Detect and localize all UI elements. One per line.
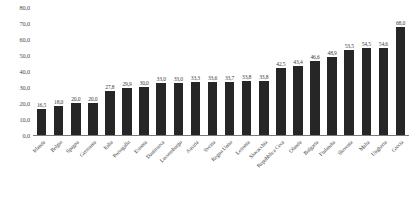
bar-value-label: 18,0 (54, 99, 63, 105)
bar-value-label: 33,3 (191, 75, 200, 81)
y-axis-tick-label: 70,0 (0, 21, 30, 27)
x-axis-slot: Italia (101, 137, 118, 209)
bar-value-label: 46,6 (310, 54, 319, 60)
bar[interactable]: 29,9 (122, 88, 132, 135)
y-axis-tick-label: 30,0 (0, 85, 30, 91)
bar-value-label: 43,4 (293, 59, 302, 65)
bar-slot: 33,3 (187, 8, 204, 135)
x-axis-slot: Estonia (136, 137, 153, 209)
bar-slot: 68,0 (392, 8, 409, 135)
x-axis-tick-label: Malta (358, 139, 371, 152)
bar-slot: 42,5 (272, 8, 289, 135)
y-axis-tick-label: 50,0 (0, 53, 30, 59)
bar-value-label: 33,7 (225, 75, 234, 81)
bar[interactable]: 54,6 (379, 48, 389, 135)
bar[interactable]: 33,8 (242, 81, 252, 135)
x-axis-slot: Malta (358, 137, 375, 209)
x-axis-slot: Repubblica Ceca (272, 137, 289, 209)
bar-value-label: 30,0 (140, 80, 149, 86)
bar-slot: 29,9 (118, 8, 135, 135)
bar[interactable]: 48,9 (327, 57, 337, 135)
bar[interactable]: 33,7 (225, 82, 235, 135)
bar-value-label: 48,9 (328, 50, 337, 56)
x-axis-slot: Danimarca (153, 137, 170, 209)
bar-slot: 33,6 (204, 8, 221, 135)
x-axis-slot: Germania (84, 137, 101, 209)
x-axis-slot: Bulgaria (307, 137, 324, 209)
bar-value-label: 27,8 (105, 84, 114, 90)
y-axis-tick-label: 40,0 (0, 69, 30, 75)
bar-value-label: 33,8 (242, 74, 251, 80)
bar-value-label: 42,5 (276, 61, 285, 67)
bar-slot: 27,8 (101, 8, 118, 135)
bar-value-label: 20,0 (71, 96, 80, 102)
bar-slot: 33,8 (255, 8, 272, 135)
y-axis: 0,010,020,030,040,050,060,070,080,0 (0, 8, 30, 136)
x-axis-slot: Finlandia (324, 137, 341, 209)
x-axis-line (33, 135, 409, 136)
x-axis-tick-label: Spagna (65, 139, 80, 154)
bar-slot: 18,0 (50, 8, 67, 135)
bar[interactable]: 46,6 (310, 61, 320, 135)
x-axis-tick-label: Belgio (49, 139, 63, 153)
bar-slot: 43,4 (289, 8, 306, 135)
bar-slot: 20,0 (84, 8, 101, 135)
y-axis-tick-label: 60,0 (0, 37, 30, 43)
bar-series: 16,518,020,020,027,829,930,033,033,033,3… (33, 8, 409, 135)
y-axis-tick-label: 10,0 (0, 117, 30, 123)
bar[interactable]: 53,5 (344, 50, 354, 135)
bar-value-label: 53,5 (345, 43, 354, 49)
y-axis-tick-label: 80,0 (0, 5, 30, 11)
x-axis-slot: Irlanda (33, 137, 50, 209)
bar[interactable]: 20,0 (71, 103, 81, 135)
bar-slot: 16,5 (33, 8, 50, 135)
bar-value-label: 16,5 (37, 102, 46, 108)
x-axis-tick-label: Olanda (287, 139, 302, 154)
x-axis-tick-label: Italia (102, 139, 114, 151)
x-axis-tick-label: Grecia (391, 139, 405, 153)
bar-value-label: 54,5 (362, 41, 371, 47)
x-axis-slot: Slovenia (341, 137, 358, 209)
bar-chart: 0,010,020,030,040,050,060,070,080,0 16,5… (0, 0, 412, 209)
bar[interactable]: 33,3 (191, 82, 201, 135)
bar[interactable]: 33,0 (174, 83, 184, 135)
bar-slot: 54,6 (375, 8, 392, 135)
x-axis-slot: Regno Unito (221, 137, 238, 209)
bar[interactable]: 27,8 (105, 91, 115, 135)
bar-value-label: 33,0 (174, 76, 183, 82)
bar-value-label: 33,0 (157, 76, 166, 82)
y-axis-tick-label: 0,0 (0, 133, 30, 139)
plot-area: 16,518,020,020,027,829,930,033,033,033,3… (33, 8, 409, 136)
x-axis-tick-label: Svezia (203, 139, 217, 153)
bar-slot: 30,0 (136, 8, 153, 135)
bar[interactable]: 33,0 (156, 83, 166, 135)
bar[interactable]: 33,6 (208, 82, 218, 135)
bar-slot: 54,5 (358, 8, 375, 135)
bar-slot: 33,0 (170, 8, 187, 135)
bar-value-label: 20,0 (88, 96, 97, 102)
bar[interactable]: 68,0 (396, 27, 406, 135)
bar[interactable]: 30,0 (139, 87, 149, 135)
bar-slot: 46,6 (307, 8, 324, 135)
x-axis-slot: Olanda (289, 137, 306, 209)
bar-slot: 33,7 (221, 8, 238, 135)
bar[interactable]: 33,8 (259, 81, 269, 135)
bar-slot: 20,0 (67, 8, 84, 135)
bar-value-label: 29,9 (122, 81, 131, 87)
x-axis-slot: Lettonia (238, 137, 255, 209)
x-axis-slot: Portogallo (118, 137, 135, 209)
x-axis-labels: IrlandaBelgioSpagnaGermaniaItaliaPortoga… (33, 137, 409, 209)
bar[interactable]: 16,5 (37, 109, 47, 135)
bar[interactable]: 20,0 (88, 103, 98, 135)
bar[interactable]: 18,0 (54, 106, 64, 135)
bar-value-label: 33,8 (259, 74, 268, 80)
bar[interactable]: 54,5 (362, 48, 372, 135)
x-axis-slot: Lussemburgo (170, 137, 187, 209)
bar[interactable]: 43,4 (293, 66, 303, 135)
bar-value-label: 68,0 (396, 20, 405, 26)
bar-value-label: 33,6 (208, 75, 217, 81)
x-axis-slot: Grecia (392, 137, 409, 209)
bar-slot: 53,5 (341, 8, 358, 135)
bar[interactable]: 42,5 (276, 68, 286, 135)
x-axis-tick-label: Estonia (133, 139, 148, 154)
